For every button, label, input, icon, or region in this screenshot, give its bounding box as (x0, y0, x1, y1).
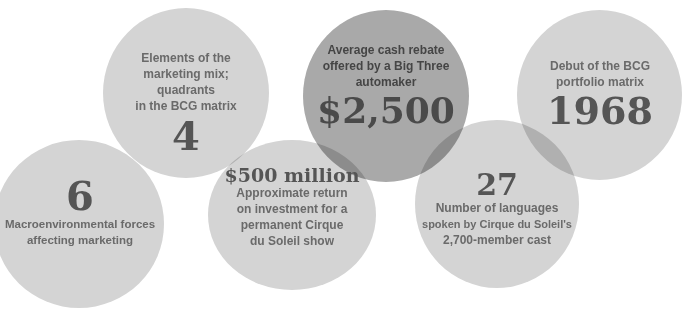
stat-label: Debut of the BCG portfolio matrix (550, 58, 650, 90)
label-line: du Soleil show (236, 233, 347, 249)
stat-five-hundred-million: $500 million Approximate return on inves… (216, 166, 368, 249)
stat-value: 27 (476, 170, 518, 200)
label-line: Macroenvironmental forces (5, 216, 155, 232)
stat-value: $2,500 (317, 92, 455, 128)
label-line: Number of languages (422, 200, 572, 216)
stat-nineteen-sixty-eight: Debut of the BCG portfolio matrix 1968 (527, 58, 673, 130)
stat-six: 6 Macroenvironmental forces affecting ma… (0, 176, 160, 248)
stat-label: Average cash rebate offered by a Big Thr… (323, 42, 450, 90)
label-line: 2,700-member cast (422, 232, 572, 248)
label-line: Debut of the BCG (550, 58, 650, 74)
label-line: permanent Cirque (236, 217, 347, 233)
label-line: Approximate return (236, 185, 347, 201)
label-line: automaker (323, 74, 450, 90)
label-line: spoken by Cirque du Soleil's (422, 216, 572, 232)
stat-label: Macroenvironmental forces affecting mark… (5, 216, 155, 248)
stat-value: 6 (66, 176, 94, 216)
label-line: Average cash rebate (323, 42, 450, 58)
stat-label: Number of languages spoken by Cirque du … (422, 200, 572, 248)
label-line: affecting marketing (5, 232, 155, 248)
stat-value: 1968 (547, 92, 653, 130)
stats-infographic: Elements of the marketing mix; quadrants… (0, 0, 698, 309)
label-line: offered by a Big Three (323, 58, 450, 74)
stat-cash-rebate: Average cash rebate offered by a Big Thr… (303, 42, 469, 128)
stat-label: Elements of the marketing mix; quadrants… (113, 50, 259, 114)
stat-label: Approximate return on investment for a p… (236, 185, 347, 249)
label-line: Elements of the (113, 50, 259, 66)
label-line: on investment for a (236, 201, 347, 217)
stat-four: Elements of the marketing mix; quadrants… (113, 50, 259, 156)
label-line: marketing mix; quadrants (113, 66, 259, 98)
stat-value: 4 (172, 116, 200, 156)
stat-twenty-seven: 27 Number of languages spoken by Cirque … (417, 170, 577, 248)
stat-value: $500 million (225, 166, 360, 185)
